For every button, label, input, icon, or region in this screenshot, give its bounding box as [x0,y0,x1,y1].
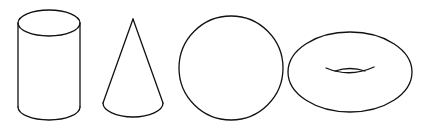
cylinder-shape [18,10,80,120]
geometric-solids-diagram: Geometric solids Cylinder Cone Sphere To… [0,0,425,131]
shapes-canvas [0,0,425,131]
sphere-shape [179,16,283,120]
cone-shape [103,19,163,117]
torus-shape [288,32,412,112]
